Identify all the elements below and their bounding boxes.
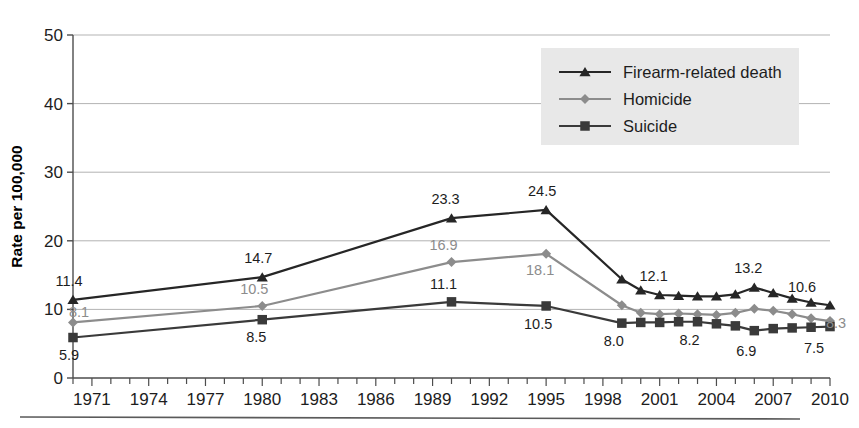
data-label: 18.1: [526, 262, 554, 278]
triangle-marker: [635, 285, 646, 294]
square-marker: [731, 321, 741, 331]
legend-label: Homicide: [623, 90, 692, 108]
data-label: 8.0: [604, 333, 624, 349]
data-label: 8.2: [679, 332, 699, 348]
square-marker: [617, 318, 627, 328]
square-marker: [768, 324, 778, 334]
x-tick-label-1989: 1989: [414, 390, 452, 409]
data-label: 13.2: [734, 260, 762, 276]
data-label: 23.3: [431, 191, 459, 207]
x-tick-label-1986: 1986: [357, 390, 395, 409]
x-tick-label-1980: 1980: [243, 390, 281, 409]
diamond-marker: [787, 309, 797, 319]
square-marker: [712, 319, 722, 329]
diamond-marker: [806, 313, 816, 323]
x-tick-label-1995: 1995: [527, 390, 565, 409]
square-marker: [447, 297, 457, 307]
square-marker: [580, 121, 590, 131]
data-label: 6.9: [736, 343, 756, 359]
data-label: 11.4: [55, 273, 82, 289]
x-tick-label-1977: 1977: [187, 390, 225, 409]
square-marker: [258, 315, 268, 325]
square-marker: [750, 326, 760, 336]
x-tick-label-1983: 1983: [300, 390, 338, 409]
data-label: 14.7: [244, 250, 272, 266]
data-label: 7.5: [804, 340, 824, 356]
legend-label: Suicide: [623, 117, 677, 135]
data-label: 10.5: [524, 316, 552, 332]
x-tick-label-2001: 2001: [641, 390, 679, 409]
square-marker: [693, 317, 703, 327]
footer-rule: [20, 417, 800, 419]
x-tick-label-1971: 1971: [73, 390, 111, 409]
x-tick-label-2010: 2010: [811, 390, 849, 409]
data-label: 11.1: [430, 276, 457, 292]
diamond-marker: [711, 310, 721, 320]
diamond-marker: [447, 257, 457, 267]
x-tick-label-1974: 1974: [130, 390, 168, 409]
diamond-marker: [768, 306, 778, 316]
data-label: 10.6: [788, 279, 816, 295]
series-suicide: [68, 297, 835, 342]
data-label: 16.9: [429, 237, 457, 253]
square-marker: [655, 318, 665, 328]
triangle-marker: [749, 282, 760, 291]
square-marker: [806, 322, 816, 332]
data-label: 8.3: [826, 315, 846, 331]
y-axis-title: Rate per 100,000: [8, 145, 25, 267]
data-label: 8.5: [246, 329, 266, 345]
x-tick-label-1992: 1992: [470, 390, 508, 409]
diamond-marker: [749, 304, 759, 314]
y-tick-label-30: 30: [44, 163, 63, 182]
x-tick-label-2004: 2004: [698, 390, 736, 409]
square-marker: [674, 317, 684, 327]
x-tick-label-2007: 2007: [754, 390, 792, 409]
data-label: 8.1: [69, 304, 89, 320]
chart-legend: Firearm-related deathHomicideSuicide: [541, 48, 799, 145]
line-chart: 0102030405019711974197719801983198619891…: [0, 0, 859, 428]
square-marker: [787, 323, 797, 333]
square-marker: [68, 333, 78, 343]
y-tick-label-0: 0: [54, 369, 63, 388]
y-tick-label-10: 10: [44, 300, 63, 319]
y-tick-label-20: 20: [44, 232, 63, 251]
square-marker: [636, 318, 646, 328]
data-label: 5.9: [59, 347, 79, 363]
y-tick-label-50: 50: [44, 26, 63, 45]
data-label: 24.5: [528, 183, 556, 199]
data-label: 12.1: [640, 268, 668, 284]
y-tick-label-40: 40: [44, 95, 63, 114]
x-tick-label-1998: 1998: [584, 390, 622, 409]
square-marker: [541, 301, 551, 311]
legend-label: Firearm-related death: [623, 63, 782, 81]
data-label: 10.5: [240, 281, 268, 297]
chart-container: 0102030405019711974197719801983198619891…: [0, 0, 859, 428]
